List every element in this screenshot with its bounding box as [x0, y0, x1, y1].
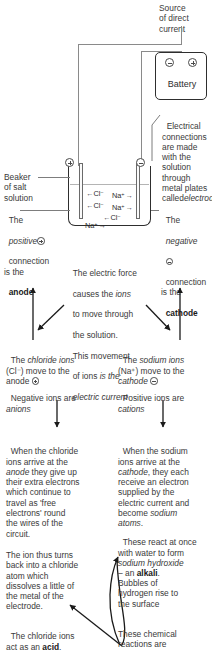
callout-electrical-connections-text: Electrical connections are made with the…	[162, 121, 207, 203]
left-step-2: Negative ions are anions	[6, 383, 98, 414]
right-step1-sodium-ions: sodium ions	[139, 355, 184, 365]
left-step3-anode: anode	[6, 467, 29, 477]
battery-plus-terminal-icon	[188, 58, 197, 67]
right-step3-cathode: cathode	[118, 467, 148, 477]
ion-row-3-sodium: Na⁺→	[85, 221, 106, 231]
leader-beaker	[38, 177, 70, 178]
minus-circle-icon	[166, 258, 174, 266]
callout-beaker: Beaker of salt solution	[4, 172, 40, 203]
anode-text-3: connection is the	[4, 256, 49, 276]
center-line2a: causes the	[73, 289, 116, 299]
electrode-anode-plate	[79, 163, 83, 219]
center-line3: to move through	[73, 309, 134, 319]
right-step-2: Positive ions are cations	[118, 383, 212, 414]
beaker-anode-terminal-icon	[65, 158, 74, 167]
cathode-text-bold: cathode	[166, 308, 198, 318]
right-step4-b: – an	[118, 568, 137, 578]
center-line1: The electric force	[73, 268, 137, 278]
left-step-1: The chloride ions(Cl⁻) move to the anode	[6, 345, 98, 386]
left-step2-a: Negative ions are	[11, 393, 76, 403]
callout-electrodes-italic: electrodes	[184, 193, 212, 203]
right-step4-a: These react at once with water to form	[118, 537, 197, 557]
right-step2-cations: cations	[118, 404, 145, 414]
right-step4-sodium-hydroxide: sodium hydroxide	[118, 558, 184, 568]
anode-text-bold: anode	[9, 287, 34, 297]
center-line2-ions: ions	[116, 289, 131, 299]
anode-text-1: The	[9, 215, 23, 225]
battery-label: Battery	[160, 79, 204, 89]
callout-electrical-connections: Electrical connections are made with the…	[162, 111, 212, 204]
right-step3-a: When the sodium ions arrive at the	[118, 446, 188, 466]
right-step-1: The sodium ions(Na⁺) move to the cathode	[118, 345, 212, 386]
cathode-text-3: connection is the	[161, 277, 206, 297]
left-step3-b: they give up their extra electrons which…	[6, 467, 80, 539]
source-of-direct-current-label: Source of direct current	[159, 3, 211, 34]
right-step2-a: Positive ions are	[123, 393, 184, 403]
left-step-5: The chloride ions act as an acid.	[6, 621, 104, 652]
anode-text-positive: positive	[9, 236, 37, 246]
wire-right-vertical	[141, 51, 142, 166]
callout-cathode: The negative connection is the cathode	[161, 205, 212, 318]
battery-minus-terminal-icon	[165, 58, 174, 67]
ion-row-1-chloride: ←Cl⁻	[86, 189, 104, 199]
right-step-6: These chemical reactions are	[118, 629, 212, 650]
left-step2-anions: anions	[6, 404, 31, 414]
leader-cathode	[151, 210, 159, 211]
right-step-5: Bubbles of hydrogen rise to the surface	[118, 578, 212, 609]
left-step1-chloride-ions: chloride ions	[27, 355, 74, 365]
left-step-4: The ion thus turns back into a chloride …	[6, 550, 104, 612]
right-step4-alkali: alkali	[137, 568, 158, 578]
left-step5-a: The chloride ions act as an	[6, 631, 74, 651]
cathode-text-negative: negative	[166, 236, 198, 246]
battery-body	[155, 52, 207, 100]
left-step5-b: .	[59, 642, 61, 652]
cathode-text-1: The	[166, 215, 180, 225]
left-step3-a: When the chloride ions arrive at the	[6, 446, 78, 466]
callout-anode: The positive connection is the anode	[4, 205, 62, 298]
ion-row-2-sodium: Na⁺→	[112, 203, 133, 213]
plus-circle-icon	[37, 237, 45, 245]
right-step1-b: (Na⁺) move to the	[118, 366, 184, 376]
wire-left-vertical	[78, 44, 79, 166]
electrode-cathode-plate	[136, 163, 140, 219]
left-step5-acid: acid	[42, 642, 59, 652]
right-step-4: These react at once with water to form s…	[118, 527, 212, 578]
beaker-cathode-terminal-icon	[136, 158, 145, 167]
center-line6-isthe: is the	[100, 371, 120, 381]
left-step1-a: The	[11, 355, 28, 365]
left-step-3: When the chloride ions arrive at the ano…	[6, 436, 104, 539]
right-step1-a: The	[123, 355, 140, 365]
right-step4-c: .	[158, 568, 160, 578]
wire-source-stub	[181, 26, 182, 44]
ion-row-2-chloride: ←Cl⁻	[86, 201, 104, 211]
right-step-3: When the sodium ions arrive at the catho…	[118, 436, 212, 529]
center-line4: the solution.	[73, 330, 118, 340]
wire-top-left	[78, 44, 182, 45]
ion-row-1-sodium: Na⁺→	[112, 191, 133, 201]
